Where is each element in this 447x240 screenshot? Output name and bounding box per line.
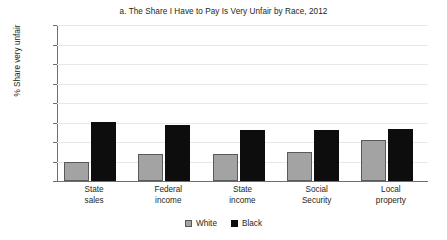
gridline <box>57 64 428 65</box>
legend-label: White <box>196 219 217 228</box>
chart-legend: WhiteBlack <box>0 219 447 228</box>
y-tick-mark <box>53 103 57 104</box>
x-category-label-line: Local <box>354 185 428 196</box>
x-category-label-line: income <box>205 196 279 207</box>
bar-white-local-property <box>361 140 386 181</box>
bar-white-social-security <box>287 152 312 181</box>
y-tick-mark <box>53 84 57 85</box>
legend-swatch-white <box>185 220 192 227</box>
y-tick-mark <box>53 162 57 163</box>
gridline <box>57 45 428 46</box>
y-tick-mark <box>53 181 57 182</box>
x-category-label-line: sales <box>57 196 131 207</box>
x-category-label-line: income <box>131 196 205 207</box>
x-category-label: SocialSecurity <box>280 185 354 206</box>
bar-black-state-sales <box>91 122 116 181</box>
plot-area: 80706050403020100 StatesalesFederalincom… <box>57 25 428 181</box>
gridline <box>57 103 428 104</box>
x-category-label: Localproperty <box>354 185 428 206</box>
bar-black-local-property <box>388 129 413 181</box>
y-tick-mark <box>53 142 57 143</box>
x-category-label-line: Security <box>280 196 354 207</box>
y-axis-title: % Share very unfair <box>13 6 22 116</box>
x-category-label: Statesales <box>57 185 131 206</box>
gridline <box>57 84 428 85</box>
bar-black-social-security <box>314 130 339 181</box>
y-tick-mark <box>53 64 57 65</box>
chart-title: a. The Share I Have to Pay Is Very Unfai… <box>0 7 447 16</box>
x-category-label-line: Federal <box>131 185 205 196</box>
x-category-label: Stateincome <box>205 185 279 206</box>
legend-swatch-black <box>231 220 238 227</box>
x-category-label-line: State <box>57 185 131 196</box>
y-tick-mark <box>53 123 57 124</box>
chart-figure: a. The Share I Have to Pay Is Very Unfai… <box>0 0 447 240</box>
bar-white-state-sales <box>64 162 89 181</box>
y-tick-mark <box>53 25 57 26</box>
bar-white-federal-income <box>138 154 163 181</box>
legend-item-white[interactable]: White <box>185 219 217 228</box>
x-category-label: Federalincome <box>131 185 205 206</box>
bar-black-federal-income <box>165 125 190 181</box>
legend-label: Black <box>242 219 262 228</box>
bar-white-state-income <box>213 154 238 181</box>
gridline <box>57 25 428 26</box>
x-category-label-line: Social <box>280 185 354 196</box>
x-category-label-line: State <box>205 185 279 196</box>
bar-black-state-income <box>240 130 265 181</box>
y-tick-mark <box>53 45 57 46</box>
gridline <box>57 181 428 182</box>
x-category-label-line: property <box>354 196 428 207</box>
legend-item-black[interactable]: Black <box>231 219 262 228</box>
